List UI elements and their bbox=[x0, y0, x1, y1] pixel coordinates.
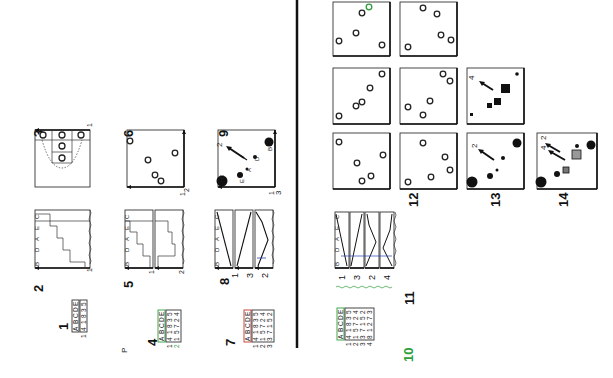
svg-text:B: B bbox=[158, 330, 165, 334]
svg-text:E: E bbox=[124, 226, 130, 230]
svg-text:E: E bbox=[334, 226, 340, 230]
svg-text:5: 5 bbox=[259, 330, 266, 334]
svg-text:3: 3 bbox=[359, 335, 366, 339]
svg-text:8: 8 bbox=[252, 324, 259, 328]
scatter-14: 2 4 bbox=[536, 133, 598, 189]
scatter-r1c1 bbox=[333, 2, 390, 56]
svg-text:3: 3 bbox=[274, 190, 283, 195]
svg-text:2: 2 bbox=[173, 318, 180, 322]
svg-text:2: 2 bbox=[259, 318, 266, 322]
svg-text:4: 4 bbox=[366, 342, 373, 346]
svg-text:1: 1 bbox=[80, 334, 87, 338]
svg-text:4: 4 bbox=[259, 312, 266, 316]
table-7: ABCDE 41835 15724 37152 123 bbox=[244, 310, 274, 348]
svg-text:4: 4 bbox=[173, 312, 180, 316]
svg-text:1: 1 bbox=[230, 273, 240, 278]
svg-text:B: B bbox=[337, 328, 344, 332]
svg-text:1: 1 bbox=[345, 342, 352, 346]
svg-text:A: A bbox=[244, 336, 251, 341]
svg-text:B: B bbox=[334, 262, 340, 266]
svg-text:B: B bbox=[244, 330, 251, 334]
svg-text:1: 1 bbox=[86, 123, 93, 127]
label-10: 10 bbox=[401, 348, 416, 362]
svg-text:2: 2 bbox=[367, 275, 377, 280]
svg-text:D: D bbox=[158, 317, 165, 322]
svg-text:D: D bbox=[244, 317, 251, 322]
svg-text:2: 2 bbox=[359, 310, 366, 314]
svg-text:C: C bbox=[124, 214, 130, 219]
svg-text:D: D bbox=[124, 247, 130, 252]
svg-text:7: 7 bbox=[266, 330, 273, 334]
scatter-r3c1 bbox=[333, 133, 390, 189]
svg-text:8: 8 bbox=[366, 335, 373, 339]
svg-text:E: E bbox=[34, 226, 40, 230]
svg-text:1: 1 bbox=[148, 270, 155, 274]
scatter-13: 2 bbox=[467, 133, 525, 189]
scatter-r2c1 bbox=[333, 68, 390, 124]
svg-text:1: 1 bbox=[80, 320, 87, 324]
svg-text:2: 2 bbox=[260, 273, 270, 278]
label-7: 7 bbox=[223, 339, 238, 346]
svg-text:A: A bbox=[214, 237, 220, 241]
svg-text:2: 2 bbox=[259, 344, 266, 348]
svg-text:C: C bbox=[219, 174, 225, 179]
label-2: 2 bbox=[31, 285, 46, 292]
label-13: 13 bbox=[488, 193, 503, 207]
svg-text:8: 8 bbox=[345, 322, 352, 326]
svg-text:D: D bbox=[254, 156, 260, 161]
table-4: ABCDE 41835 15724 12 bbox=[158, 310, 181, 348]
panel-labels: 1 2 3 4 5 6 7 8 9 10 11 12 13 14 P bbox=[31, 130, 571, 362]
panel-3-grid: 1 bbox=[35, 123, 93, 187]
scatter-r1c2 bbox=[400, 2, 457, 56]
svg-text:C: C bbox=[72, 313, 79, 318]
svg-text:4: 4 bbox=[345, 335, 352, 339]
table-10: ABCDE 41835 15724 37152 81273 1234 bbox=[337, 308, 374, 346]
bar-plot-5: B D A E C 1 2 bbox=[124, 210, 185, 274]
svg-text:D: D bbox=[34, 247, 40, 252]
svg-text:A: A bbox=[337, 334, 344, 339]
svg-text:5: 5 bbox=[359, 316, 366, 320]
svg-text:1: 1 bbox=[266, 324, 273, 328]
svg-text:3: 3 bbox=[345, 316, 352, 320]
svg-text:1: 1 bbox=[366, 328, 373, 332]
label-1: 1 bbox=[56, 323, 71, 330]
svg-text:C: C bbox=[334, 214, 340, 219]
svg-text:3: 3 bbox=[80, 308, 87, 312]
svg-text:A: A bbox=[72, 326, 79, 331]
bar-plot-11: B D A E C 1 3 2 4 bbox=[334, 212, 396, 288]
svg-text:5: 5 bbox=[252, 312, 259, 316]
label-12: 12 bbox=[406, 193, 421, 207]
scatter-r2c2 bbox=[400, 68, 457, 124]
svg-text:4: 4 bbox=[467, 75, 476, 80]
svg-text:3: 3 bbox=[266, 337, 273, 341]
svg-text:D: D bbox=[214, 247, 220, 252]
svg-text:2: 2 bbox=[470, 143, 479, 148]
svg-text:7: 7 bbox=[359, 328, 366, 332]
svg-text:1: 1 bbox=[166, 330, 173, 334]
label-5: 5 bbox=[121, 281, 136, 288]
svg-text:7: 7 bbox=[352, 322, 359, 326]
svg-text:A: A bbox=[334, 237, 340, 241]
svg-text:D: D bbox=[72, 307, 79, 312]
svg-text:1: 1 bbox=[352, 335, 359, 339]
svg-text:B: B bbox=[34, 262, 40, 266]
svg-text:E: E bbox=[337, 309, 344, 314]
svg-text:D: D bbox=[334, 247, 340, 252]
svg-text:7: 7 bbox=[259, 324, 266, 328]
svg-text:E: E bbox=[72, 301, 79, 306]
svg-text:C: C bbox=[214, 214, 220, 219]
svg-text:2: 2 bbox=[178, 270, 185, 274]
svg-text:1: 1 bbox=[166, 344, 173, 348]
svg-text:E: E bbox=[158, 311, 165, 316]
svg-text:1: 1 bbox=[252, 330, 259, 334]
svg-text:2: 2 bbox=[352, 316, 359, 320]
svg-text:C: C bbox=[34, 214, 40, 219]
svg-text:1: 1 bbox=[259, 337, 266, 341]
svg-text:5: 5 bbox=[266, 318, 273, 322]
svg-text:8: 8 bbox=[80, 314, 87, 318]
svg-text:4: 4 bbox=[166, 337, 173, 341]
label-6: 6 bbox=[121, 130, 136, 137]
svg-text:2: 2 bbox=[183, 188, 190, 192]
label-11: 11 bbox=[402, 291, 417, 305]
svg-text:A: A bbox=[246, 168, 252, 172]
